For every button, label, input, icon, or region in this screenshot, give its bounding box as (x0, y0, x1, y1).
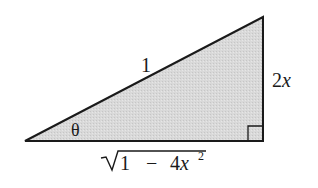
opposite-coefficient: 2 (272, 69, 282, 91)
radicand-variable: x (179, 152, 189, 174)
adjacent-side-label: 1 − 4x 2 (101, 149, 206, 174)
opposite-variable: x (281, 69, 291, 91)
opposite-side-label: 2x (272, 69, 291, 91)
angle-theta-label: θ (71, 120, 80, 140)
radicand-term1: 1 (120, 152, 130, 174)
triangle-shape (25, 17, 263, 141)
radicand-exponent: 2 (198, 149, 204, 163)
radicand-coefficient: 4 (170, 152, 180, 174)
right-triangle-diagram: 1 2x θ 1 − 4x 2 (0, 0, 318, 188)
radicand-operator: − (146, 152, 157, 174)
hypotenuse-label: 1 (141, 54, 151, 76)
radicand-term2: 4x (170, 152, 189, 174)
